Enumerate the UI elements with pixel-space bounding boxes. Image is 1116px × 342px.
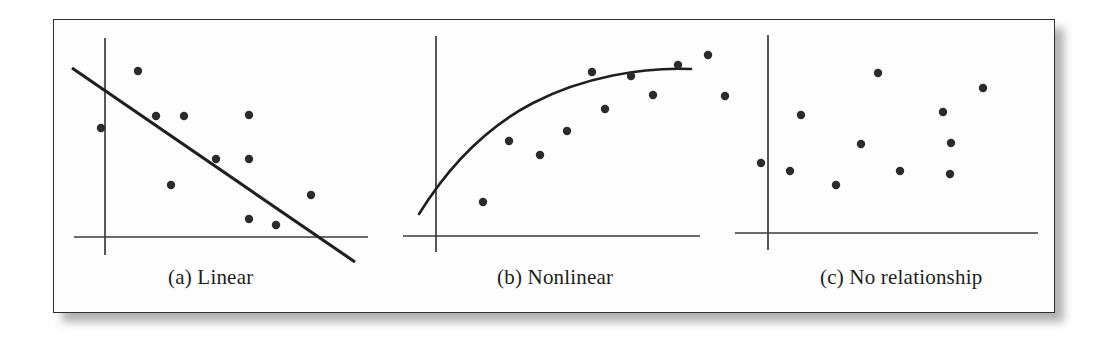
data-point (797, 111, 805, 119)
panel-nonlinear (403, 36, 729, 252)
data-point (479, 198, 487, 206)
data-point (212, 155, 220, 163)
data-point (167, 181, 175, 189)
trend-curve-nonlinear (419, 69, 691, 214)
caption-no-relationship: (c) No relationship (820, 265, 982, 290)
figure-root: (a) Linear (b) Nonlinear (c) No relation… (0, 0, 1116, 342)
data-point (947, 139, 955, 147)
data-point (857, 140, 865, 148)
data-point (939, 108, 947, 116)
data-point (588, 68, 596, 76)
caption-nonlinear: (b) Nonlinear (497, 265, 613, 290)
data-point (874, 69, 882, 77)
data-point (134, 67, 142, 75)
data-point (536, 151, 544, 159)
data-point (272, 221, 280, 229)
data-point (704, 51, 712, 59)
data-point (979, 84, 987, 92)
data-point (649, 91, 657, 99)
data-point (674, 61, 682, 69)
trend-line-linear (72, 68, 355, 262)
data-point (505, 137, 513, 145)
data-point (832, 181, 840, 189)
data-point (245, 111, 253, 119)
panel-no-relationship (735, 35, 1038, 250)
data-point (896, 167, 904, 175)
data-point (307, 191, 315, 199)
data-point (946, 170, 954, 178)
data-point (627, 72, 635, 80)
data-point (97, 124, 105, 132)
data-point (601, 105, 609, 113)
data-point (245, 215, 253, 223)
data-point (757, 159, 765, 167)
data-point (152, 112, 160, 120)
data-point (721, 92, 729, 100)
data-point (786, 167, 794, 175)
panel-linear (72, 38, 368, 262)
caption-linear: (a) Linear (168, 265, 253, 290)
data-point (563, 127, 571, 135)
data-point (180, 112, 188, 120)
data-point (245, 155, 253, 163)
